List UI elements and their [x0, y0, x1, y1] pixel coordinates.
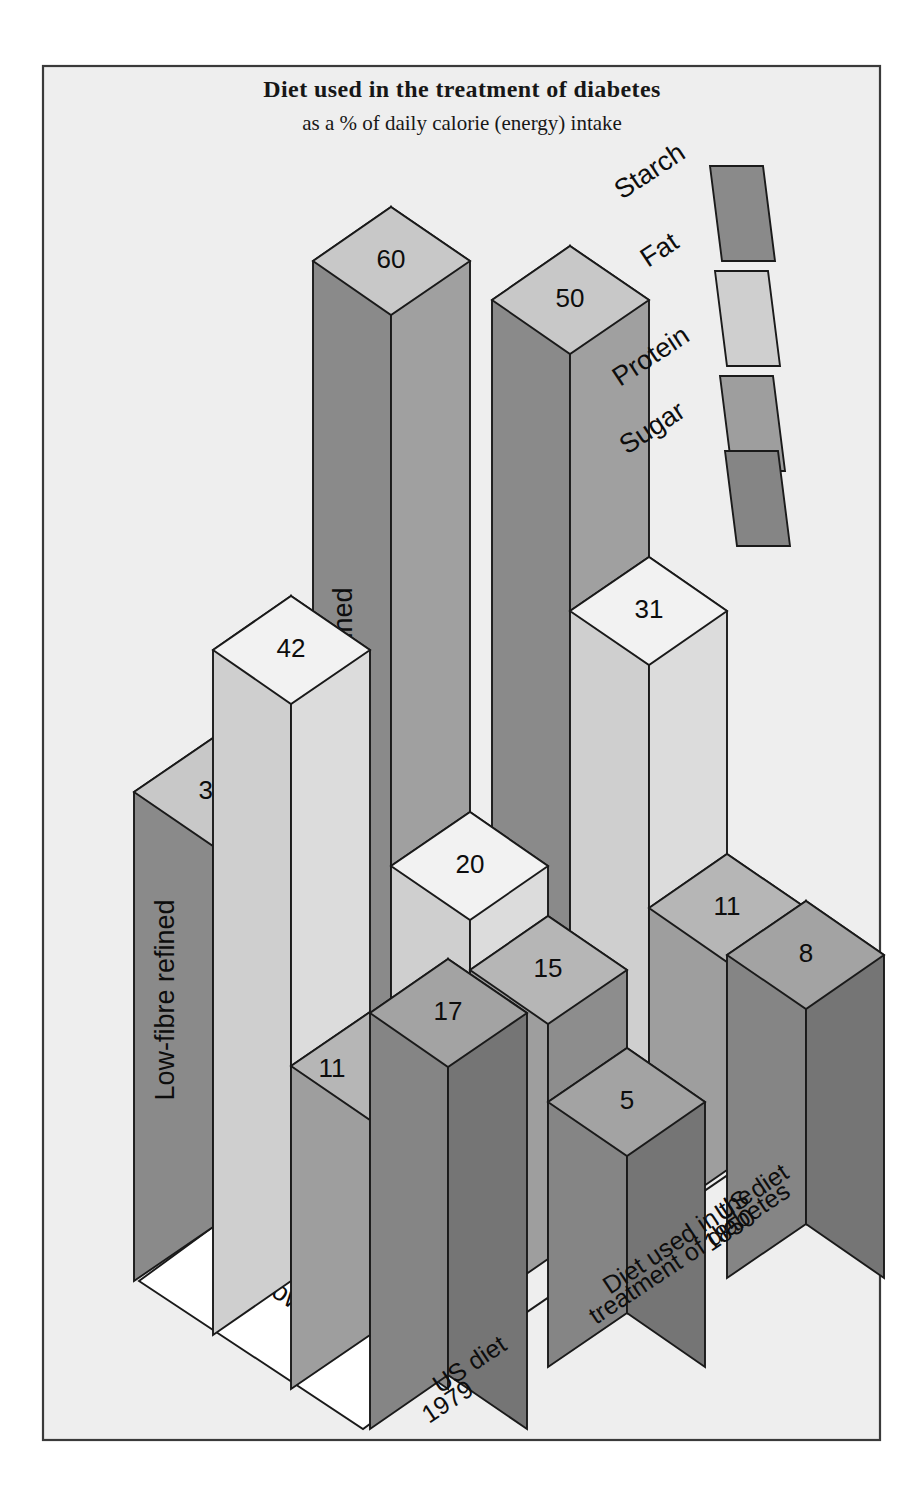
bar-value-us1979-sugar: 17	[434, 996, 463, 1026]
bar-value-us1850-fat: 31	[635, 594, 664, 624]
diet-diabetes-3d-bar-chart: Diet used in the treatment of diabetes a…	[0, 0, 922, 1499]
bar-value-us1850-protein: 11	[714, 891, 741, 921]
bar-value-diabetes-protein: 15	[534, 953, 563, 983]
bar-value-diabetes-fat: 20	[456, 849, 485, 879]
bar-value-us1979-fat: 42	[277, 633, 306, 663]
bar-value-diabetes-starch: 60	[377, 244, 406, 274]
chart-title: Diet used in the treatment of diabetes	[263, 76, 660, 102]
legend-swatch-fat	[715, 271, 780, 366]
bar-value-us1850-starch: 50	[556, 283, 585, 313]
chart-subtitle: as a % of daily calorie (energy) intake	[302, 111, 622, 135]
bar-value-us1979-protein: 11	[319, 1053, 346, 1083]
bar-value-diabetes-sugar: 5	[620, 1085, 634, 1115]
bar-annotation-low-fibre-refined: Low-fibre refined	[150, 899, 180, 1100]
bar-us1979-sugar: 17	[370, 959, 527, 1429]
legend-swatch-starch	[710, 166, 775, 261]
bar-value-us1850-sugar: 8	[799, 938, 813, 968]
legend-swatch-sugar	[725, 451, 790, 546]
